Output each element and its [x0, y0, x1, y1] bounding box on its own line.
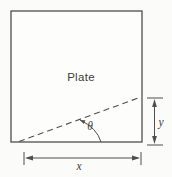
y-dim-down-arrowhead: [152, 136, 157, 144]
plate-label: Plate: [67, 71, 95, 83]
y-dimension: y: [147, 98, 164, 145]
x-dim-right-arrowhead: [132, 156, 140, 161]
x-dimension: x: [24, 152, 141, 172]
plate-figure: Plate θ x y: [0, 0, 172, 177]
x-label: x: [75, 160, 82, 172]
x-dim-left-arrowhead: [25, 156, 33, 161]
y-label: y: [157, 116, 164, 129]
figure-canvas: Plate θ x y: [0, 0, 172, 177]
y-dim-up-arrowhead: [152, 99, 157, 107]
theta-label: θ: [87, 120, 93, 132]
